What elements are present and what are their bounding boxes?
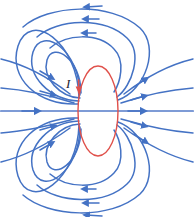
middle-bottom-loop (32, 121, 80, 181)
outer-bottom-loop-head (86, 215, 102, 216)
current-label: I (66, 77, 70, 90)
upper-open-line-1 (1, 88, 74, 103)
lower-open-line-1 (1, 119, 74, 133)
outer-top-loop-head (86, 6, 102, 7)
upper-open-line-1-right-head (131, 96, 145, 100)
magnetic-field-diagram: I (0, 0, 194, 217)
middle-top-loop (32, 41, 80, 101)
field-lines-canvas (0, 0, 194, 217)
upper-open-line-1-right (121, 88, 193, 103)
